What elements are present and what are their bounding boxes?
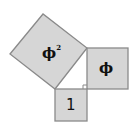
phi-squared-exponent: 2: [56, 43, 61, 52]
one-symbol: 1: [66, 96, 76, 114]
label-one: 1: [66, 98, 76, 113]
phi-squared-symbol: ϕ: [42, 44, 56, 62]
label-phi-squared: ϕ2: [42, 44, 61, 61]
label-phi: ϕ: [99, 61, 113, 76]
phi-symbol: ϕ: [99, 59, 113, 77]
